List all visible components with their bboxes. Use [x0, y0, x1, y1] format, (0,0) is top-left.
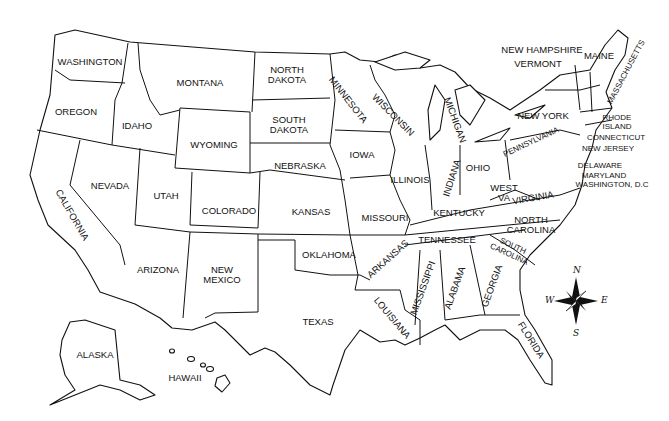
state-label-oklahoma: OKLAHOMA: [302, 250, 356, 260]
state-label-texas: TEXAS: [302, 317, 333, 327]
state-label-vermont: VERMONT: [514, 59, 562, 69]
state-label-illinois: ILLINOIS: [390, 175, 429, 185]
state-label-maryland: MARYLAND: [582, 171, 626, 180]
state-label-iowa: IOWA: [350, 150, 375, 160]
state-label-wyoming: WYOMING: [190, 140, 238, 150]
compass-rose-icon: [554, 277, 598, 325]
state-label-kansas: KANSAS: [292, 207, 331, 217]
state-label-nevada: NEVADA: [91, 181, 129, 191]
state-label-new-hampshire: NEW HAMPSHIRE: [501, 45, 582, 55]
state-label-montana: MONTANA: [177, 78, 224, 88]
state-label-kentucky: KENTUCKY: [433, 208, 485, 218]
state-label-new-jersey: NEW JERSEY: [582, 144, 634, 153]
state-label-connecticut: CONNECTICUT: [587, 133, 645, 142]
compass-south-label: S: [573, 328, 579, 338]
us-map: WASHINGTONOREGONCALIFORNIANEVADAIDAHOMON…: [0, 0, 669, 421]
state-label-new-york: NEW YORK: [517, 111, 569, 121]
state-label-missouri: MISSOURI: [362, 213, 409, 223]
state-label-alaska: ALASKA: [77, 350, 114, 360]
state-label-west-virginia: WEST VA: [490, 183, 517, 203]
state-label-colorado: COLORADO: [202, 206, 256, 216]
state-label-washington: WASHINGTON: [58, 57, 123, 67]
state-label-north-carolina: NORTH CAROLINA: [507, 215, 556, 235]
compass-east-label: E: [601, 295, 608, 305]
state-label-utah: UTAH: [153, 191, 178, 201]
state-label-nebraska: NEBRASKA: [274, 161, 326, 171]
state-label-rhode-island: RHODE ISLAND: [603, 113, 632, 131]
state-label-maine: MAINE: [584, 51, 614, 61]
state-label-ohio: OHIO: [466, 163, 490, 173]
state-label-oregon: OREGON: [55, 107, 97, 117]
state-label-tennessee: TENNESSEE: [418, 235, 476, 245]
compass-west-label: W: [545, 295, 554, 305]
state-label-arizona: ARIZONA: [137, 265, 179, 275]
state-label-delaware: DELAWARE: [578, 161, 622, 170]
state-label-idaho: IDAHO: [122, 121, 152, 131]
state-label-south-dakota: SOUTH DAKOTA: [270, 115, 308, 135]
state-label-hawaii: HAWAII: [168, 373, 201, 383]
state-label-new-mexico: NEW MEXICO: [203, 265, 240, 285]
state-label-north-dakota: NORTH DAKOTA: [268, 65, 306, 85]
compass-north-label: N: [573, 265, 581, 275]
state-label-washington-dc: WASHINGTON, D.C: [576, 180, 649, 189]
